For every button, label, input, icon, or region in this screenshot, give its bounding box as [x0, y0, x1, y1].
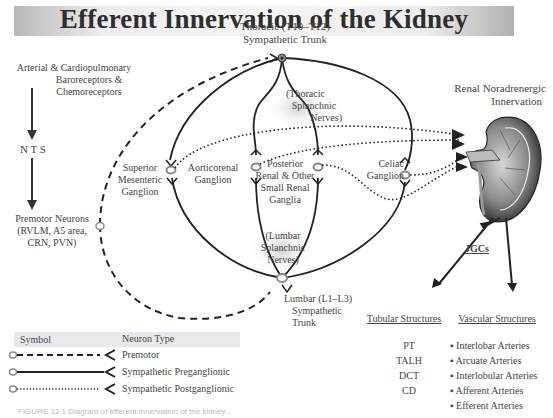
target-arrowheads-icon: [432, 219, 517, 292]
figure: Efferent Innervation of the Kidney: [0, 0, 553, 418]
renal-innervation-line: Innervation: [434, 95, 546, 108]
vascular-item-label: Arcuate Arteries: [456, 355, 522, 366]
aorticorenal-line: Aorticorenal: [178, 162, 248, 174]
tubular-item: DCT: [384, 368, 434, 383]
renal-innervation-line: Renal Noradrenergic: [434, 82, 546, 95]
celiac-line: Celiac: [360, 158, 404, 170]
posterior-renal-line: Ganglia: [252, 194, 318, 206]
arrow-to-premotor-icon: [27, 200, 37, 210]
kidney-illustration: [466, 117, 541, 222]
legend-symbols: [10, 350, 116, 394]
thoracic-trunk-label: Thoracic (T10–T12) Sympathetic Trunk: [230, 20, 340, 46]
baroreceptors-line: Arterial & Cardiopulmonary: [4, 62, 144, 74]
vascular-item: ▪ Afferent Arteries: [450, 383, 550, 398]
lumbar-trunk-label: Lumbar (L1–L3) Sympathetic Trunk: [284, 293, 364, 329]
superior-mesenteric-line: Ganglion: [112, 186, 168, 198]
superior-mesenteric-line: Superior: [112, 162, 168, 174]
jgcs-label: JGCs: [462, 243, 492, 255]
thoracic-splanchnic-label: (Thoracic Splanchnic Nerves): [286, 88, 342, 124]
baroreceptors-label: Arterial & Cardiopulmonary Baroreceptors…: [4, 62, 144, 98]
superior-mesenteric-label: Superior Mesenteric Ganglion: [112, 162, 168, 198]
posterior-renal-label: Posterior Renal & Other Small Renal Gang…: [252, 158, 318, 206]
baroreceptors-line: Chemoreceptors: [4, 86, 144, 98]
vascular-item: ▪ Interlobar Arteries: [450, 338, 550, 353]
lumbar-trunk-line: Lumbar (L1–L3): [284, 293, 364, 305]
premotor-line: (RVLM, A5 area,: [8, 225, 96, 237]
figure-caption: FIGURE 12.1 Diagram of efferent innervat…: [18, 407, 232, 416]
bullet-icon: ▪: [450, 370, 454, 381]
aorticorenal-label: Aorticorenal Ganglion: [178, 162, 248, 186]
thoracic-splanchnic-line: Splanchnic: [286, 100, 342, 112]
legend-postganglionic-label: Sympathetic Postganglionic: [122, 383, 234, 395]
renal-innervation-label: Renal Noradrenergic Innervation: [434, 82, 546, 108]
vascular-item: ▪ Interlobular Arteries: [450, 368, 550, 383]
vascular-structures-list: ▪ Interlobar Arteries ▪ Arcuate Arteries…: [450, 338, 550, 413]
legend-symbol-header: Symbol: [20, 334, 51, 346]
legend-type-header: Neuron Type: [122, 333, 174, 345]
nts-label: N T S: [16, 143, 50, 155]
lumbar-splanchnic-label: (Lumbar Splanchnic Nerves): [255, 230, 311, 266]
vascular-item: ▪ Efferent Arteries: [450, 398, 550, 413]
bullet-icon: ▪: [450, 400, 454, 411]
lumbar-splanchnic-line: Splanchnic: [255, 242, 311, 254]
premotor-neurons-label: Premotor Neurons (RVLM, A5 area, CRN, PV…: [8, 213, 96, 249]
premotor-line: Premotor Neurons: [8, 213, 96, 225]
posterior-renal-line: Posterior: [252, 158, 318, 170]
baroreceptors-line: Baroreceptors &: [4, 74, 144, 86]
premotor-line: CRN, PVN): [8, 237, 96, 249]
lumbar-trunk-line: Sympathetic: [284, 305, 364, 317]
lumbar-synapse-chevron-icon: [282, 285, 292, 292]
celiac-label: Celiac Ganglion: [360, 158, 404, 182]
tubular-structures-header: Tubular Structures: [358, 313, 450, 325]
arrow-to-nts-icon: [27, 130, 37, 140]
thoracic-trunk-line: Sympathetic Trunk: [230, 33, 340, 46]
tubular-structures-list: PT TALH DCT CD: [384, 338, 434, 398]
tubular-item: CD: [384, 383, 434, 398]
lumbar-trunk-line: Trunk: [284, 317, 364, 329]
celiac-line: Ganglion: [360, 170, 404, 182]
postganglionic-arrowheads-icon: [452, 129, 468, 172]
aorticorenal-line: Ganglion: [178, 174, 248, 186]
vascular-item-label: Interlobular Arteries: [456, 370, 537, 381]
bullet-icon: ▪: [450, 340, 454, 351]
bullet-icon: ▪: [450, 355, 454, 366]
bullet-icon: ▪: [450, 385, 454, 396]
lumbar-splanchnic-line: (Lumbar: [255, 230, 311, 242]
lumbar-splanchnic-line: Nerves): [255, 254, 311, 266]
vascular-item-label: Interlobar Arteries: [456, 340, 530, 351]
premotor-soma-icon: [96, 223, 104, 230]
legend-preganglionic-label: Sympathetic Preganglionic: [122, 366, 230, 378]
vascular-item: ▪ Arcuate Arteries: [450, 353, 550, 368]
thoracic-trunk-line: Thoracic (T10–T12): [230, 20, 340, 33]
lumbar-trunk-soma-icon: [277, 274, 287, 282]
tubular-item: TALH: [384, 353, 434, 368]
legend-premotor-label: Premotor: [122, 349, 159, 361]
thoracic-splanchnic-line: Nerves): [286, 112, 342, 124]
vascular-item-label: Efferent Arteries: [456, 400, 523, 411]
vascular-item-label: Afferent Arteries: [456, 385, 524, 396]
posterior-renal-line: Small Renal: [252, 182, 318, 194]
thoracic-splanchnic-line: (Thoracic: [286, 88, 342, 100]
tubular-item: PT: [384, 338, 434, 353]
superior-mesenteric-line: Mesenteric: [112, 174, 168, 186]
vascular-structures-header: Vascular Structures: [451, 313, 543, 325]
posterior-renal-line: Renal & Other: [252, 170, 318, 182]
